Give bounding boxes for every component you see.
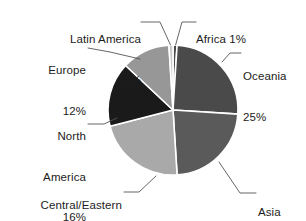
leader-line-latin-america: [141, 22, 171, 45]
pie-slice-asia[interactable]: [173, 110, 238, 175]
pie-label-europe-line1: Europe: [14, 64, 86, 78]
pie-label-oceania-line2: 25%: [243, 111, 305, 125]
pie-label-central-eastern-europe: Central/Eastern Europe 22%: [2, 172, 122, 221]
leader-line-asia: [219, 162, 256, 193]
leader-line-africa: [176, 22, 196, 45]
pie-label-asia: Asia 23%: [258, 179, 304, 221]
pie-label-central-eastern-europe-line1: Central/Eastern: [2, 199, 122, 213]
leader-line-central-eastern-europe: [124, 176, 156, 192]
pie-label-asia-line1: Asia: [258, 206, 304, 220]
pie-label-oceania: Oceania 25%: [243, 43, 305, 151]
pie-label-oceania-line1: Oceania: [243, 70, 305, 84]
pie-chart-screenshot: Latin America 1% Africa 1% Europe 12% Oc…: [0, 0, 306, 221]
pie-label-north-america-line1: North: [2, 130, 86, 144]
